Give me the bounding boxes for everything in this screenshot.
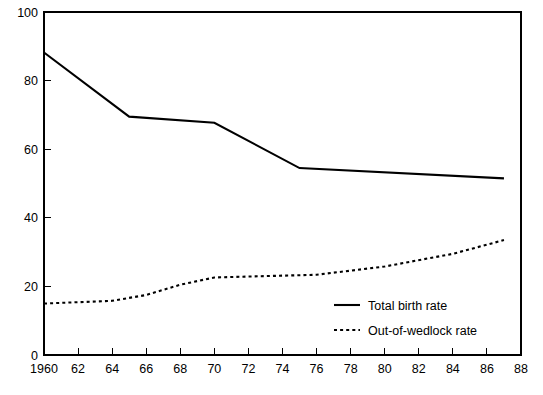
y-axis-labels: 020406080100	[17, 6, 38, 363]
series-line-2	[44, 240, 504, 303]
plot-frame	[44, 12, 521, 355]
x-tick-label-80: 80	[378, 362, 392, 376]
x-tick-label-70: 70	[207, 362, 221, 376]
x-tick-label-66: 66	[139, 362, 153, 376]
x-tick-label-76: 76	[310, 362, 324, 376]
line-chart: 020406080100 196062646668707274767880828…	[0, 0, 543, 395]
chart-legend: Total birth rateOut-of-wedlock rate	[334, 299, 477, 338]
y-tick-label-100: 100	[17, 6, 38, 20]
x-tick-label-78: 78	[344, 362, 358, 376]
x-tick-label-84: 84	[446, 362, 460, 376]
y-tick-label-60: 60	[24, 143, 38, 157]
y-tick-label-40: 40	[24, 211, 38, 225]
x-tick-label-68: 68	[173, 362, 187, 376]
x-tick-label-1960: 1960	[30, 362, 58, 376]
legend-label-1: Total birth rate	[368, 299, 447, 313]
x-axis-ticks	[78, 348, 487, 355]
legend-label-2: Out-of-wedlock rate	[368, 324, 477, 338]
chart-container: 020406080100 196062646668707274767880828…	[0, 0, 543, 395]
y-tick-label-0: 0	[31, 349, 38, 363]
plot-area-border	[44, 12, 521, 355]
x-axis-labels: 19606264666870727476788082848688	[30, 362, 528, 376]
data-series-layer	[44, 52, 504, 303]
y-tick-label-20: 20	[24, 280, 38, 294]
y-tick-label-80: 80	[24, 74, 38, 88]
x-tick-label-88: 88	[514, 362, 528, 376]
y-axis-ticks	[44, 81, 51, 287]
x-tick-label-82: 82	[412, 362, 426, 376]
x-tick-label-62: 62	[71, 362, 85, 376]
x-tick-label-86: 86	[480, 362, 494, 376]
series-line-1	[44, 52, 504, 178]
x-tick-label-74: 74	[276, 362, 290, 376]
x-tick-label-64: 64	[105, 362, 119, 376]
x-tick-label-72: 72	[241, 362, 255, 376]
